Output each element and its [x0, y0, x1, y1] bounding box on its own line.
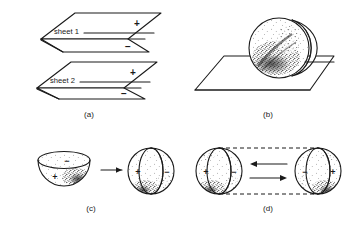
panel-b: (b)	[195, 18, 334, 119]
figure-svg: sheet 1 + − sheet 2 + − (a)	[0, 0, 348, 227]
panel-d-left-plus-sign: +	[203, 167, 208, 177]
panel-c: − + + −	[36, 148, 174, 213]
panel-d-left-minus-sign: −	[231, 167, 236, 177]
panel-d-equilibrium-arrows	[250, 161, 287, 181]
sheet-2-plus-sign: +	[130, 67, 136, 78]
panel-d-caption: (d)	[263, 204, 273, 213]
sheet-1-plus-sign: +	[134, 18, 140, 29]
panel-c-bowl-plus-sign: +	[52, 172, 57, 182]
panel-c-arrow	[101, 167, 122, 173]
panel-d-right-sphere: − +	[295, 148, 341, 196]
panel-c-bowl: − +	[36, 150, 94, 190]
panel-c-sphere: + −	[128, 148, 174, 196]
sheet-2-label: sheet 2	[50, 76, 75, 85]
panel-c-bowl-minus-sign: −	[64, 156, 69, 166]
panel-c-caption: (c)	[86, 204, 96, 213]
sheet-1-bottom-face	[41, 39, 149, 52]
panel-d-right-plus-sign: +	[330, 167, 335, 177]
panel-a-caption: (a)	[84, 110, 94, 119]
sheet-1-group: sheet 1 + −	[41, 13, 161, 52]
sheet-1-minus-sign: −	[125, 41, 131, 52]
sheet-2-minus-sign: −	[121, 88, 127, 99]
panel-c-sphere-minus-sign: −	[164, 167, 169, 177]
panel-d-arrow-right-head	[280, 175, 287, 181]
panel-c-sphere-plus-sign: +	[135, 167, 140, 177]
figure-root: sheet 1 + − sheet 2 + − (a)	[0, 0, 348, 227]
panel-a: sheet 1 + − sheet 2 + − (a)	[37, 13, 161, 119]
panel-d-arrow-left-head	[250, 161, 257, 167]
panel-b-caption: (b)	[263, 110, 273, 119]
sheet-2-bottom-face	[37, 88, 145, 99]
panel-d: + −	[196, 148, 341, 213]
panel-d-left-sphere: + −	[196, 148, 242, 196]
sheet-2-group: sheet 2 + −	[37, 62, 157, 99]
sheet-1-label: sheet 1	[54, 27, 79, 36]
panel-d-right-minus-sign: −	[302, 167, 307, 177]
panel-c-arrow-head	[116, 167, 122, 173]
